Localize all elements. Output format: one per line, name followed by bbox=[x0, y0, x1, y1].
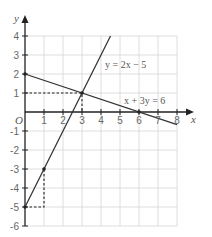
svg-text:4: 4 bbox=[98, 115, 104, 126]
y-tick-labels: 4 3 2 1 -1 -2 -3 -4 -5 -6 bbox=[10, 31, 19, 232]
svg-text:-2: -2 bbox=[10, 145, 19, 156]
axes bbox=[25, 20, 190, 226]
origin-label: O bbox=[15, 114, 23, 126]
svg-text:-4: -4 bbox=[10, 183, 19, 194]
y-axis-arrow-icon bbox=[22, 15, 29, 23]
svg-text:1: 1 bbox=[13, 88, 19, 99]
svg-text:4: 4 bbox=[13, 31, 19, 42]
svg-text:-6: -6 bbox=[10, 221, 19, 232]
svg-text:-5: -5 bbox=[10, 202, 19, 213]
x-tick-labels: 1 2 3 4 5 6 7 8 bbox=[41, 115, 180, 126]
svg-text:3: 3 bbox=[79, 115, 85, 126]
svg-text:7: 7 bbox=[155, 115, 161, 126]
svg-text:-3: -3 bbox=[10, 164, 19, 175]
svg-text:1: 1 bbox=[41, 115, 47, 126]
svg-text:5: 5 bbox=[117, 115, 123, 126]
y-axis-label: y bbox=[13, 12, 19, 24]
svg-text:-1: -1 bbox=[10, 126, 19, 137]
svg-text:2: 2 bbox=[60, 115, 66, 126]
svg-text:6: 6 bbox=[136, 115, 142, 126]
x-axis-label: x bbox=[190, 113, 196, 125]
line1-label: y = 2x − 5 bbox=[105, 59, 146, 70]
coordinate-graph: 1 2 3 4 5 6 7 8 4 3 2 1 -1 -2 -3 -4 -5 -… bbox=[0, 0, 212, 237]
svg-text:8: 8 bbox=[174, 115, 180, 126]
line2-label: x + 3y = 6 bbox=[124, 95, 165, 106]
grid bbox=[25, 36, 177, 226]
svg-text:3: 3 bbox=[13, 50, 19, 61]
svg-text:2: 2 bbox=[13, 69, 19, 80]
